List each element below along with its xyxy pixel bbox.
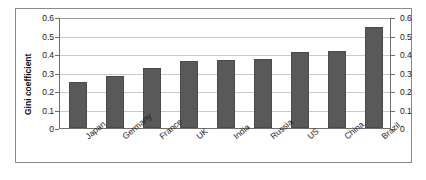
y-tick-mark-left-0.5 <box>55 37 59 38</box>
y-tick-left-0.5: 0.5 <box>28 33 54 42</box>
y-tick-mark-right-0.3 <box>391 74 395 75</box>
x-label-china: China <box>342 133 349 141</box>
bar-uk <box>180 61 198 128</box>
y-tick-right-0.4: 0.4 <box>400 51 426 60</box>
y-tick-mark-left-0.3 <box>55 74 59 75</box>
y-tick-mark-right-0.1 <box>391 111 395 112</box>
y-tick-left-0.6: 0.6 <box>28 14 54 23</box>
bar-japan <box>69 82 87 128</box>
bar-germany <box>106 76 124 128</box>
y-tick-mark-right-0.5 <box>391 37 395 38</box>
y-tick-right-0.2: 0.2 <box>400 88 426 97</box>
y-tick-right-0.6: 0.6 <box>400 14 426 23</box>
x-label-france: France <box>157 133 164 141</box>
y-tick-left-0.4: 0.4 <box>28 51 54 60</box>
y-tick-right-0.5: 0.5 <box>400 33 426 42</box>
bar-brazil <box>365 27 383 128</box>
plot-area <box>59 18 391 129</box>
y-tick-mark-right-0.4 <box>391 55 395 56</box>
y-tick-right-0.1: 0.1 <box>400 107 426 116</box>
bar-series <box>60 18 390 128</box>
y-tick-right-0: 0 <box>400 125 426 134</box>
y-tick-left-0.1: 0.1 <box>28 107 54 116</box>
x-label-uk: UK <box>194 133 201 141</box>
y-tick-left-0.3: 0.3 <box>28 70 54 79</box>
y-tick-mark-right-0.6 <box>391 18 395 19</box>
bar-china <box>328 51 346 128</box>
y-tick-mark-left-0 <box>55 129 59 130</box>
x-label-india: India <box>231 133 238 141</box>
bar-india <box>217 60 235 128</box>
x-label-japan: Japan <box>84 133 91 141</box>
bar-russia <box>254 59 272 128</box>
x-label-us: US <box>305 133 312 141</box>
chart-frame: Gini coefficient 00.10.20.30.40.50.6 00.… <box>15 8 412 163</box>
y-tick-right-0.3: 0.3 <box>400 70 426 79</box>
y-tick-mark-left-0.2 <box>55 92 59 93</box>
y-tick-mark-left-0.1 <box>55 111 59 112</box>
bar-us <box>291 52 309 128</box>
y-tick-left-0: 0 <box>28 125 54 134</box>
x-label-russia: Russia <box>268 133 275 141</box>
x-label-germany: Germany <box>121 133 128 141</box>
y-tick-left-0.2: 0.2 <box>28 88 54 97</box>
y-tick-mark-left-0.4 <box>55 55 59 56</box>
y-tick-mark-left-0.6 <box>55 18 59 19</box>
y-tick-mark-right-0.2 <box>391 92 395 93</box>
x-label-brazil: Brazil <box>379 133 386 141</box>
